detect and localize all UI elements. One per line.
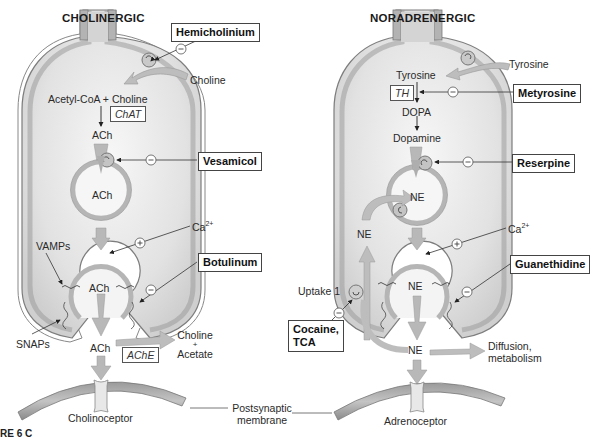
- ach-release-label: ACh: [89, 282, 109, 294]
- uptake1-label: Uptake 1: [298, 285, 340, 297]
- guanethidine-drug-box: Guanethidine: [510, 255, 590, 274]
- vamps-label: VAMPs: [36, 240, 70, 252]
- postsynaptic-membrane-label: Postsynaptic membrane: [230, 402, 294, 426]
- ach-cleft-label: ACh: [90, 342, 110, 354]
- th-enzyme-box: TH: [390, 85, 414, 101]
- reserpine-drug-box: Reserpine: [512, 154, 575, 173]
- dopa-label: DOPA: [402, 106, 431, 118]
- tyrosine-intracellular-label: Tyrosine: [396, 69, 436, 81]
- noradrenergic-title: NORADRENERGIC: [370, 12, 475, 24]
- cocaine-tca-drug-box: Cocaine, TCA: [288, 320, 344, 352]
- ach-product-label: ACh: [92, 129, 112, 141]
- ne-reuptake-label: NE: [357, 228, 372, 240]
- botulinum-drug-box: Botulinum: [198, 253, 262, 272]
- degradation-products: Choline + Acetate: [170, 329, 220, 360]
- choline-transporter: [142, 53, 156, 67]
- ne-vesicle-label: NE: [410, 191, 425, 203]
- uptake1-transporter: [349, 285, 363, 299]
- adrenoceptor-shape: [410, 382, 424, 412]
- cholinoceptor-label: Cholinoceptor: [68, 412, 133, 424]
- dopamine-label: Dopamine: [393, 132, 441, 144]
- metyrosine-drug-box: Metyrosine: [513, 84, 581, 103]
- synthesis-label: Acetyl-CoA + Choline: [48, 93, 148, 105]
- adrenoceptor-label: Adrenoceptor: [384, 415, 447, 427]
- neurotransmitter-diagram: [0, 0, 597, 438]
- vesamicol-drug-box: Vesamicol: [198, 152, 262, 171]
- cholinergic-title: CHOLINERGIC: [62, 12, 145, 24]
- choline-label: Choline: [190, 74, 226, 86]
- snaps-label: SNAPs: [16, 338, 50, 350]
- cholinoceptor-shape: [94, 380, 108, 412]
- ache-enzyme-box: AChE: [122, 347, 159, 363]
- chat-enzyme-box: ChAT: [110, 106, 146, 122]
- calcium-label-right: Ca2+: [508, 220, 529, 235]
- diffusion-metabolism-label: Diffusion, metabolism: [488, 340, 542, 364]
- ne-release-label: NE: [408, 280, 423, 292]
- hemicholinium-drug-box: Hemicholinium: [171, 23, 260, 42]
- tyrosine-extracellular-label: Tyrosine: [509, 58, 549, 70]
- ne-cleft-label: NE: [408, 344, 423, 356]
- figure-caption: RE 6 C: [0, 428, 32, 438]
- tyrosine-transporter: [461, 51, 475, 65]
- calcium-label-left: Ca2+: [192, 218, 213, 233]
- ach-vesicle-label: ACh: [92, 189, 112, 201]
